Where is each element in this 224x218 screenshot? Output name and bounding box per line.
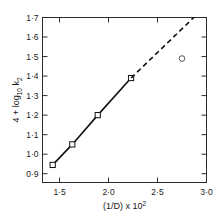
outlier-point-marker: [179, 56, 185, 62]
y-axis-tick-labels: 0·91·01·11·21·31·41·51·61·7: [26, 13, 39, 179]
data-point-marker: [70, 142, 75, 147]
y-axis-title: 4 + log10 k2: [11, 77, 23, 123]
x-tick-label-1: 2·0: [102, 187, 115, 197]
chart-figure: 0·91·01·11·21·31·41·51·61·7 1·52·02·53·0…: [0, 0, 224, 218]
series-outlier-point: [179, 56, 185, 62]
y-tick-label-6: 1·5: [26, 52, 39, 62]
data-point-marker: [50, 162, 55, 167]
x-tick-label-0: 1·5: [53, 187, 66, 197]
y-tick-label-2: 1·1: [26, 130, 39, 140]
y-tick-label-7: 1·6: [26, 32, 39, 42]
x-axis-title: (1/D) x 102: [103, 200, 147, 212]
y-tick-label-8: 1·7: [26, 13, 39, 23]
y-tick-label-0: 0·9: [26, 169, 39, 179]
x-tick-label-3: 3·0: [200, 187, 213, 197]
y-tick-label-5: 1·4: [26, 71, 39, 81]
y-tick-label-4: 1·3: [26, 91, 39, 101]
y-tick-label-1: 1·0: [26, 149, 39, 159]
y-tick-label-3: 1·2: [26, 110, 39, 120]
scatter-plot: 0·91·01·11·21·31·41·51·61·7 1·52·02·53·0…: [0, 0, 224, 218]
x-tick-label-2: 2·5: [151, 187, 164, 197]
data-point-marker: [95, 113, 100, 118]
